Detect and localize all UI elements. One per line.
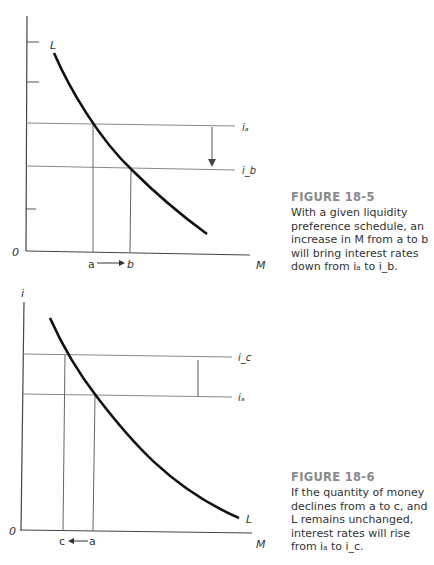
rate-line-c bbox=[23, 354, 232, 357]
x-axis-label: M bbox=[256, 538, 266, 551]
figure-18-6-graph: i 0 L M c a i_c iₐ bbox=[9, 287, 266, 551]
rate-line-a bbox=[23, 394, 232, 397]
point-c-label: c bbox=[59, 535, 65, 548]
arrow-right-icon bbox=[119, 260, 125, 266]
curve-label: L bbox=[50, 39, 56, 52]
rate-c-label: i_c bbox=[238, 352, 252, 364]
x-axis bbox=[21, 530, 252, 533]
point-b-label: b bbox=[127, 258, 134, 271]
origin-label: 0 bbox=[12, 246, 19, 259]
point-a-label: a bbox=[88, 258, 95, 271]
rate-a-label: iₐ bbox=[242, 122, 249, 133]
caption-text: If the quantity of money declines from a… bbox=[291, 486, 434, 554]
figure-18-5-graph: L 0 M a b iₐ i_b bbox=[12, 16, 266, 272]
y-axis bbox=[21, 302, 24, 531]
figure-18-5-caption: FIGURE 18-5 With a given liquidity prefe… bbox=[291, 190, 434, 274]
origin-label: 0 bbox=[9, 525, 16, 538]
liquidity-curve bbox=[50, 318, 239, 518]
y-axis-label: i bbox=[21, 287, 24, 300]
arrow-down-icon bbox=[208, 159, 216, 167]
point-a-label: a bbox=[89, 535, 96, 548]
rate-a-label: iₐ bbox=[238, 392, 245, 403]
curve-label: L bbox=[246, 513, 252, 526]
rate-b-label: i_b bbox=[242, 165, 256, 177]
figure-18-6-caption: FIGURE 18-6 If the quantity of money dec… bbox=[291, 470, 434, 554]
rate-line-a bbox=[26, 123, 235, 126]
y-axis bbox=[26, 16, 27, 251]
caption-text: With a given liquidity preference schedu… bbox=[291, 206, 434, 274]
x-axis-label: M bbox=[256, 259, 266, 272]
x-axis bbox=[26, 251, 250, 255]
figure-title: FIGURE 18-6 bbox=[291, 470, 434, 484]
figure-title: FIGURE 18-5 bbox=[291, 190, 434, 204]
